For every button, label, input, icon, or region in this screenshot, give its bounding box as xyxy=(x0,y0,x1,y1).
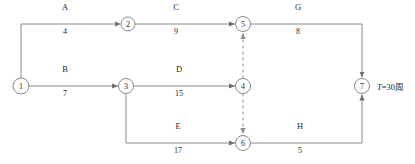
activity-c-duration: 9 xyxy=(174,27,178,36)
network-diagram-canvas: 1 2 3 4 5 6 7 A 4 C 9 G 8 B 7 xyxy=(0,0,415,164)
node-6[interactable]: 6 xyxy=(236,136,251,151)
activity-e-name: E xyxy=(175,121,180,131)
node-7[interactable]: 7 xyxy=(355,79,370,94)
activity-a-duration: 4 xyxy=(63,27,67,36)
activity-d-duration: 15 xyxy=(175,89,183,98)
activity-h-name: H xyxy=(297,121,303,131)
activity-e-duration: 17 xyxy=(174,146,182,155)
activity-d-name: D xyxy=(176,64,182,74)
node-3-label: 3 xyxy=(124,82,128,91)
total-duration-label: T=30周 xyxy=(377,80,404,92)
node-4[interactable]: 4 xyxy=(236,79,251,94)
node-5-label: 5 xyxy=(241,20,245,29)
node-1[interactable]: 1 xyxy=(13,78,29,94)
activity-b-duration: 7 xyxy=(63,89,67,98)
activity-g-duration: 8 xyxy=(296,27,300,36)
node-4-label: 4 xyxy=(241,82,245,91)
activity-c-name: C xyxy=(173,2,179,12)
activity-a-name: A xyxy=(62,2,68,12)
node-2-label: 2 xyxy=(126,20,130,29)
node-5[interactable]: 5 xyxy=(236,17,251,32)
activity-h-duration: 5 xyxy=(298,146,302,155)
node-6-label: 6 xyxy=(241,139,245,148)
node-7-label: 7 xyxy=(360,82,364,91)
network-diagram-graphic: 1 2 3 4 5 6 7 xyxy=(0,0,415,164)
activity-b-name: B xyxy=(62,64,68,74)
node-1-label: 1 xyxy=(19,82,23,91)
node-2[interactable]: 2 xyxy=(121,17,135,31)
edge-activity-e xyxy=(126,94,235,144)
total-duration-unit: 周 xyxy=(395,82,404,92)
edge-activity-g xyxy=(251,24,363,78)
edge-activity-h xyxy=(251,95,363,144)
total-duration-value: 30 xyxy=(387,82,396,92)
node-3[interactable]: 3 xyxy=(119,79,134,94)
edge-activity-a xyxy=(21,24,121,78)
activity-g-name: G xyxy=(295,2,301,12)
